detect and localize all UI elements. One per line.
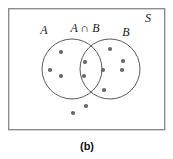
intersection-label: A ∩ B — [69, 21, 100, 35]
element-dot — [82, 74, 86, 78]
set-a-label: A — [39, 23, 48, 37]
set-b-label: B — [122, 25, 130, 39]
element-dot — [121, 59, 125, 63]
venn-diagram-figure: S A A ∩ B B (b) — [0, 0, 173, 159]
element-dot — [120, 68, 124, 72]
element-dot — [101, 68, 105, 72]
element-dot — [59, 50, 63, 54]
element-dot — [48, 68, 52, 72]
element-dot — [102, 88, 106, 92]
figure-caption: (b) — [80, 140, 94, 152]
venn-diagram-canvas: S A A ∩ B B (b) — [0, 0, 173, 159]
element-dot — [83, 60, 87, 64]
element-dot — [71, 111, 75, 115]
element-dot — [59, 74, 63, 78]
universe-label: S — [145, 11, 151, 25]
element-dot — [108, 47, 112, 51]
element-dot — [84, 104, 88, 108]
